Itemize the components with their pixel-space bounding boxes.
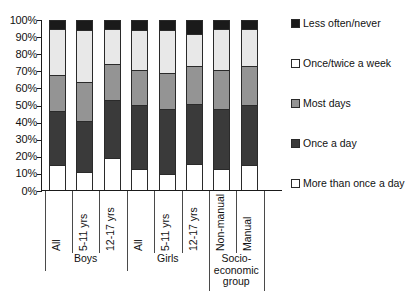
group-separator — [127, 251, 128, 271]
category-label: 5-11 yrs — [160, 189, 171, 251]
chart-legend: Less often/neverOnce/twice a weekMost da… — [291, 14, 413, 186]
bar-segment — [213, 70, 230, 109]
y-axis-tick-mark — [37, 140, 42, 141]
bar-segment — [241, 105, 258, 165]
legend-label: Most days — [303, 98, 351, 109]
category-separator — [236, 191, 237, 253]
y-axis-tick-label: 20% — [16, 151, 37, 162]
legend-swatch-icon — [291, 19, 300, 28]
category-separator — [72, 191, 73, 253]
group-label-boys: Boys — [45, 253, 127, 265]
bar-segment — [213, 20, 230, 29]
y-axis-tick-mark — [37, 157, 42, 158]
bar-segment — [76, 30, 93, 81]
category-separator — [154, 191, 155, 253]
y-axis-tick-label: 30% — [16, 134, 37, 145]
bar-segment — [76, 121, 93, 172]
bar-segment — [159, 73, 176, 109]
bar-8 — [241, 20, 258, 191]
category-label: Manual — [242, 189, 253, 251]
y-axis-tick-mark — [37, 106, 42, 107]
legend-item[interactable]: More than once a day — [291, 178, 405, 189]
y-axis-tick-label: 90% — [16, 32, 37, 43]
bar-6 — [186, 20, 203, 191]
bar-segment — [104, 20, 121, 29]
y-axis-tick-mark — [37, 37, 42, 38]
bar-segment — [76, 20, 93, 30]
legend-item[interactable]: Most days — [291, 98, 351, 109]
y-axis-tick-mark — [37, 54, 42, 55]
category-label: 12-17 yrs — [105, 189, 116, 251]
bar-segment — [186, 20, 203, 34]
bar-segment — [49, 20, 66, 29]
legend-label: Once a day — [303, 138, 357, 149]
category-label: 5-11 yrs — [78, 189, 89, 251]
bar-segment — [186, 104, 203, 164]
bar-segment — [241, 66, 258, 105]
bar-segment — [159, 30, 176, 73]
group-separator — [209, 251, 210, 291]
bar-segment — [213, 169, 230, 191]
bar-segment — [49, 75, 66, 111]
legend-swatch-icon — [291, 179, 300, 188]
y-axis-tick-label: 0% — [22, 186, 38, 197]
y-axis-tick-mark — [37, 88, 42, 89]
legend-label: Once/twice a week — [303, 58, 391, 69]
legend-item[interactable]: Less often/never — [291, 18, 381, 29]
category-label: All — [51, 189, 62, 251]
x-axis-category-labels: All5-11 yrs12-17 yrsAll5-11 yrs12-17 yrs… — [42, 191, 281, 253]
bar-segment — [213, 29, 230, 70]
y-axis-tick-label: 60% — [16, 83, 37, 94]
bar-segment — [104, 29, 121, 65]
category-label: Non-manual — [215, 189, 226, 251]
bar-segment — [186, 34, 203, 66]
bar-segment — [104, 100, 121, 158]
group-label-girls: Girls — [127, 253, 209, 265]
category-separator — [45, 191, 46, 253]
y-axis-tick-label: 80% — [16, 49, 37, 60]
category-separator — [182, 191, 183, 253]
legend-item[interactable]: Once a day — [291, 138, 357, 149]
group-label-line: Socio- — [209, 253, 264, 265]
legend-item[interactable]: Once/twice a week — [291, 58, 391, 69]
y-axis-tick-label: 10% — [16, 168, 37, 179]
category-separator — [127, 191, 128, 253]
bar-segment — [49, 29, 66, 75]
bar-segment — [241, 165, 258, 191]
bar-7 — [213, 20, 230, 191]
y-axis-tick-mark — [37, 123, 42, 124]
bar-segment — [104, 158, 121, 190]
y-axis-tick-mark — [37, 174, 42, 175]
bar-segment — [76, 82, 93, 121]
bar-segment — [241, 29, 258, 67]
y-axis-tick-label: 70% — [16, 66, 37, 77]
group-separator — [45, 251, 46, 271]
bar-3 — [104, 20, 121, 191]
bar-segment — [213, 109, 230, 169]
bar-segment — [131, 70, 148, 106]
bar-segment — [241, 20, 258, 29]
category-separator — [99, 191, 100, 253]
bar-segment — [49, 165, 66, 191]
group-label-line: group — [209, 276, 264, 288]
legend-swatch-icon — [291, 139, 300, 148]
y-axis-tick-mark — [37, 191, 42, 192]
bar-5 — [159, 20, 176, 191]
bar-segment — [49, 111, 66, 166]
bar-segment — [186, 164, 203, 191]
category-label: All — [133, 189, 144, 251]
bar-4 — [131, 20, 148, 191]
x-axis-group-labels: BoysGirlsSocio-economicgroup — [42, 253, 292, 296]
plot-area — [42, 20, 281, 191]
category-label: 12-17 yrs — [188, 189, 199, 251]
bar-segment — [131, 105, 148, 168]
bar-segment — [104, 64, 121, 100]
group-label-socio-economic-group: Socio-economicgroup — [209, 253, 264, 288]
legend-label: Less often/never — [303, 18, 381, 29]
stacked-bar-chart: 0%10%20%30%40%50%60%70%80%90%100% All5-1… — [0, 0, 413, 296]
legend-label: More than once a day — [303, 178, 405, 189]
bar-segment — [159, 109, 176, 174]
bar-segment — [159, 20, 176, 30]
group-separator — [264, 251, 265, 291]
bar-1 — [49, 20, 66, 191]
